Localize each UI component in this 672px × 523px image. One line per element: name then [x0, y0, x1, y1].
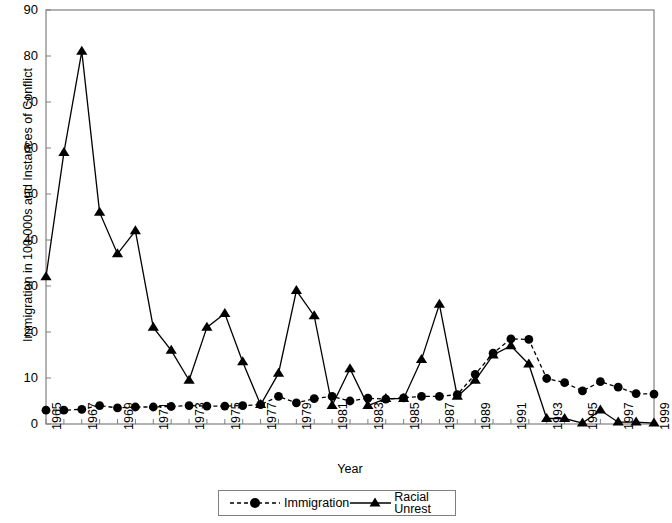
marker-immigration	[524, 335, 533, 344]
y-tick-label: 30	[4, 279, 38, 292]
y-tick-label: 50	[4, 187, 38, 200]
x-tick-label: 1991	[516, 402, 529, 430]
marker-immigration	[632, 389, 641, 398]
marker-racial-unrest	[434, 299, 445, 308]
x-tick-label: 1987	[444, 402, 457, 430]
x-tick-label: 1981	[337, 402, 350, 430]
y-tick-label: 90	[4, 3, 38, 16]
marker-racial-unrest	[94, 207, 105, 216]
y-tick-label: 10	[4, 371, 38, 384]
x-tick-label: 1985	[409, 402, 422, 430]
marker-racial-unrest	[505, 340, 516, 349]
x-tick-label: 1965	[51, 402, 64, 430]
marker-immigration	[650, 390, 659, 399]
marker-immigration	[542, 374, 551, 383]
x-tick-label: 1997	[623, 402, 636, 430]
marker-immigration	[578, 387, 587, 396]
plot-border	[46, 10, 654, 424]
x-tick-label: 1975	[230, 402, 243, 430]
x-tick-label: 1979	[301, 402, 314, 430]
marker-racial-unrest	[309, 310, 320, 319]
y-tick-label: 40	[4, 233, 38, 246]
marker-immigration	[435, 392, 444, 401]
x-tick-label: 1977	[266, 402, 279, 430]
marker-racial-unrest	[219, 308, 230, 317]
legend-swatch-immigration	[229, 495, 281, 511]
axis-ticks	[46, 10, 654, 424]
marker-racial-unrest	[237, 356, 248, 365]
marker-racial-unrest	[344, 363, 355, 372]
marker-racial-unrest	[40, 271, 51, 280]
x-tick-label: 1989	[480, 402, 493, 430]
marker-immigration	[274, 392, 283, 401]
marker-immigration	[596, 377, 605, 386]
x-tick-label: 1993	[552, 402, 565, 430]
legend-item-immigration: Immigration	[229, 491, 349, 515]
marker-immigration	[417, 392, 426, 401]
legend-label-racial-unrest: Racial Unrest	[394, 491, 455, 516]
marker-racial-unrest	[148, 322, 159, 331]
marker-racial-unrest	[130, 225, 141, 234]
marker-racial-unrest	[416, 354, 427, 363]
x-tick-label: 1967	[87, 402, 100, 430]
marker-immigration	[614, 383, 623, 392]
x-tick-label: 1999	[659, 402, 672, 430]
marker-immigration	[113, 404, 122, 413]
marker-immigration	[77, 405, 86, 414]
x-tick-label: 1983	[373, 402, 386, 430]
chart-legend: Immigration Racial Unrest	[218, 490, 456, 516]
x-tick-label: 1973	[194, 402, 207, 430]
marker-immigration	[220, 402, 229, 411]
marker-racial-unrest	[273, 368, 284, 377]
legend-label-immigration: Immigration	[284, 497, 349, 510]
y-tick-label: 80	[4, 49, 38, 62]
x-axis-title: Year	[46, 462, 654, 476]
data-series-layer	[40, 46, 659, 427]
y-tick-label: 0	[4, 417, 38, 430]
marker-immigration	[560, 378, 569, 387]
x-tick-label: 1971	[158, 402, 171, 430]
x-tick-label: 1969	[123, 402, 136, 430]
x-tick-label: 1995	[587, 402, 600, 430]
marker-racial-unrest	[58, 147, 69, 156]
legend-item-racial-unrest: Racial Unrest	[349, 491, 455, 515]
legend-swatch-racial-unrest	[349, 495, 391, 511]
marker-racial-unrest	[201, 322, 212, 331]
plot-frame	[46, 10, 654, 424]
y-tick-label: 20	[4, 325, 38, 338]
marker-racial-unrest	[76, 46, 87, 55]
marker-racial-unrest	[184, 375, 195, 384]
y-tick-label: 70	[4, 95, 38, 108]
marker-racial-unrest	[291, 285, 302, 294]
y-tick-label: 60	[4, 141, 38, 154]
